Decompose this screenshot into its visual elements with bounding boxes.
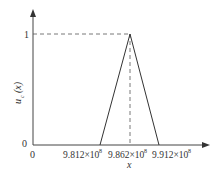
x-tick-3: 9.912×10 8 bbox=[152, 148, 191, 160]
membership-chart: 1 0 0 u c (x) 9.812×10 8 9.862×10 8 9.91… bbox=[0, 0, 216, 175]
svg-text:8: 8 bbox=[188, 148, 191, 154]
y-axis-arrow-icon bbox=[30, 9, 36, 17]
svg-text:9.812×10: 9.812×10 bbox=[63, 150, 99, 160]
svg-text:(x): (x) bbox=[12, 81, 24, 93]
svg-text:c: c bbox=[19, 95, 25, 98]
x-axis-label: x bbox=[126, 159, 132, 170]
x-tick-zero: 0 bbox=[30, 149, 35, 160]
svg-text:u: u bbox=[12, 99, 23, 104]
svg-text:8: 8 bbox=[144, 148, 147, 154]
y-tick-zero: 0 bbox=[22, 138, 27, 149]
x-tick-1: 9.812×10 8 bbox=[63, 148, 102, 160]
svg-text:9.912×10: 9.912×10 bbox=[152, 150, 188, 160]
y-tick-one: 1 bbox=[24, 29, 29, 40]
y-axis-label: u c (x) bbox=[12, 81, 25, 104]
svg-text:8: 8 bbox=[99, 148, 102, 154]
x-axis-arrow-icon bbox=[202, 142, 210, 148]
triangular-membership-line bbox=[100, 34, 159, 145]
